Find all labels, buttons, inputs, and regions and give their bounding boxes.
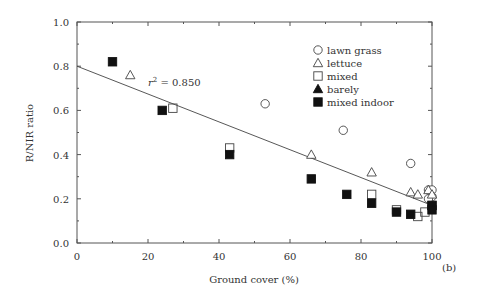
data-point (407, 159, 415, 167)
x-tick-label: 20 (142, 251, 155, 262)
legend-label: lawn grass (327, 45, 382, 56)
legend-item: barely (313, 84, 359, 95)
data-point (428, 206, 436, 214)
data-point (367, 168, 376, 176)
data-point (126, 70, 135, 78)
legend-item: lettuce (313, 58, 362, 69)
data-point (406, 187, 415, 195)
x-tick-label: 60 (284, 251, 297, 262)
data-point (225, 150, 233, 158)
x-tick-label: 40 (213, 251, 226, 262)
data-point (307, 150, 316, 158)
data-point (108, 58, 116, 66)
data-point (392, 208, 400, 216)
data-point (367, 199, 375, 207)
x-tick-label: 100 (422, 251, 441, 262)
legend-item: lawn grass (314, 45, 382, 56)
scatter-chart: 0204060801000.00.20.40.60.81.0 lawn gras… (0, 0, 489, 299)
legend-label: barely (327, 84, 359, 95)
data-point (343, 190, 351, 198)
panel-label: (b) (442, 262, 456, 273)
data-point (367, 190, 375, 198)
x-tick-label: 0 (74, 251, 80, 262)
legend-label: lettuce (327, 58, 362, 69)
series-lawn-grass (261, 100, 436, 203)
legend-item: mixed (314, 71, 358, 82)
y-axis-title: R/NIR ratio (24, 104, 35, 162)
y-tick-label: 0.8 (53, 61, 69, 72)
data-point (339, 126, 347, 134)
y-tick-label: 0.0 (53, 238, 69, 249)
data-point (407, 210, 415, 218)
legend-marker (314, 72, 322, 80)
data-point (158, 106, 166, 114)
y-tick-label: 0.4 (53, 150, 69, 161)
ticks: 0204060801000.00.20.40.60.81.0 (53, 17, 441, 262)
data-point (261, 100, 269, 108)
series-lettuce (126, 70, 437, 198)
y-tick-label: 0.6 (53, 105, 69, 116)
legend-marker (313, 58, 322, 66)
x-axis-title: Ground cover (%) (209, 274, 299, 285)
data-point (307, 175, 315, 183)
legend: lawn grasslettucemixedbarelymixed indoor (313, 45, 394, 108)
y-tick-label: 0.2 (53, 194, 69, 205)
legend-marker (314, 98, 322, 106)
r-value: = 0.850 (157, 77, 200, 88)
legend-marker (314, 46, 322, 54)
y-tick-label: 1.0 (53, 17, 69, 28)
x-tick-label: 80 (355, 251, 368, 262)
legend-label: mixed indoor (327, 97, 394, 108)
regression-layer (77, 66, 432, 205)
legend-item: mixed indoor (314, 97, 394, 108)
r-squared-annotation: r2 = 0.850 (148, 76, 201, 88)
legend-marker (313, 84, 322, 92)
legend-label: mixed (327, 71, 358, 82)
data-point (169, 104, 177, 112)
series-mixed (169, 104, 437, 221)
regression-line (77, 66, 432, 205)
